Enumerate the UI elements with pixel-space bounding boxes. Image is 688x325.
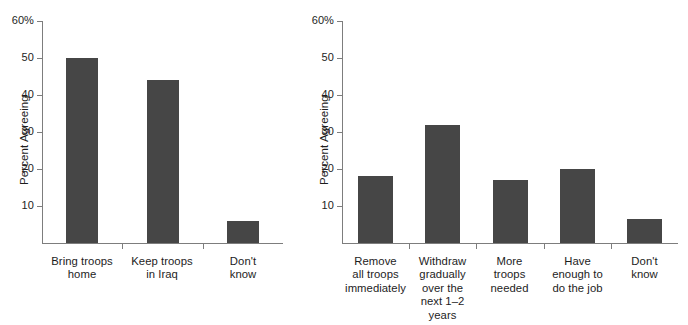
bar-chart-troop-preference: 102030405060%Percent AgreeingBring troop…: [0, 0, 300, 325]
y-axis-tick: [337, 21, 342, 22]
y-axis-tick-label: 10: [0, 200, 34, 211]
x-axis-line: [342, 243, 678, 244]
y-axis-tick-label: 60%: [282, 15, 334, 26]
y-axis-tick: [337, 95, 342, 96]
x-axis-tick: [203, 244, 204, 249]
y-axis-tick: [37, 169, 42, 170]
y-axis-title: Percent Agreeing: [18, 95, 30, 185]
x-axis-tick: [611, 244, 612, 249]
bar: [66, 58, 98, 243]
x-axis-category-label: Bring troops home: [36, 255, 128, 282]
y-axis-tick-label: 50: [0, 52, 34, 63]
x-axis-tick: [122, 244, 123, 249]
y-axis-tick: [37, 95, 42, 96]
bar-chart-withdrawal-options: 102030405060%Percent AgreeingRemove all …: [300, 0, 688, 325]
y-axis-tick-label: 50: [282, 52, 334, 63]
y-axis-tick: [337, 132, 342, 133]
x-axis-category-label: Don't know: [197, 255, 289, 282]
bar: [227, 221, 259, 243]
bar: [147, 80, 179, 243]
x-axis-line: [42, 243, 283, 244]
x-axis-tick: [544, 244, 545, 249]
x-axis-tick: [476, 244, 477, 249]
y-axis-line: [42, 21, 43, 243]
y-axis-line: [342, 21, 343, 243]
y-axis-tick: [337, 169, 342, 170]
y-axis-tick-label: 60%: [0, 15, 34, 26]
chart-panel-right: 102030405060%Percent AgreeingRemove all …: [300, 0, 688, 325]
y-axis-tick: [337, 206, 342, 207]
chart-panel-left: 102030405060%Percent AgreeingBring troop…: [0, 0, 300, 325]
y-axis-tick-label: 10: [282, 200, 334, 211]
y-axis-tick: [337, 58, 342, 59]
x-axis-category-label: Keep troops in Iraq: [116, 255, 208, 282]
bar: [560, 169, 595, 243]
bar: [493, 180, 528, 243]
bar: [627, 219, 662, 243]
x-axis-category-label: Don't know: [605, 255, 684, 282]
y-axis-title: Percent Agreeing: [318, 95, 330, 185]
y-axis-tick: [37, 58, 42, 59]
y-axis-tick: [37, 21, 42, 22]
y-axis-tick: [37, 132, 42, 133]
bar: [358, 176, 393, 243]
y-axis-tick: [37, 206, 42, 207]
bar: [425, 125, 460, 243]
x-axis-tick: [409, 244, 410, 249]
